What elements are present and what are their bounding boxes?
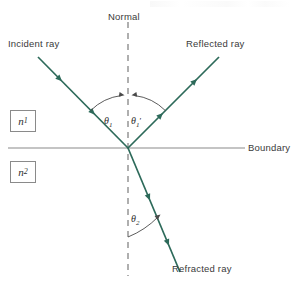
theta1-prime-label: θ1′ [131,116,141,129]
theta1-prime-mark: ′ [139,116,141,126]
n1-subscript: 1 [24,117,28,125]
refractive-index-n2-box: n2 [10,161,36,183]
theta1-prime-arc [135,96,166,111]
n2-subscript: 2 [24,168,28,176]
refracted-ray-label: Refracted ray [172,264,232,274]
theta2-label: θ2 [131,214,139,227]
optics-refraction-diagram: Normal Incident ray Reflected ray Refrac… [0,0,298,287]
incident-ray-label: Incident ray [8,39,60,49]
theta1-prime-arc-arrowhead [131,92,137,98]
theta1-arc [91,96,122,111]
theta1-label: θ1 [104,116,112,129]
boundary-label: Boundary [248,143,290,153]
theta1-arc-arrowhead [119,92,125,98]
reflected-ray-line [128,57,219,148]
theta2-subscript: 2 [136,219,140,227]
theta1-subscript: 1 [109,121,113,129]
incident-ray-line [38,57,128,148]
refracted-ray-line [128,148,180,272]
normal-label: Normal [108,12,140,22]
refractive-index-n1-box: n1 [10,110,36,132]
reflected-ray-label: Reflected ray [186,39,245,49]
